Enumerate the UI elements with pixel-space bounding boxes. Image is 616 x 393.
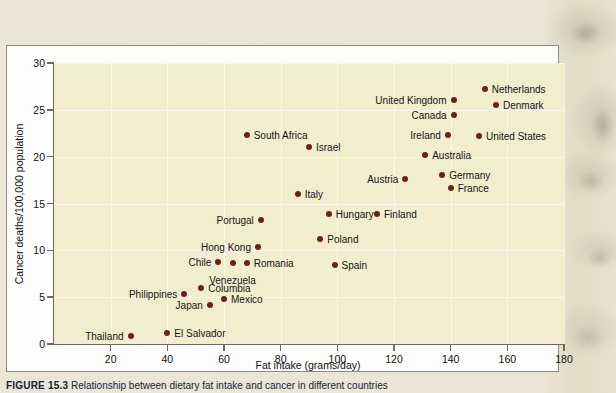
- data-point-label: Germany: [449, 170, 490, 181]
- data-point[interactable]: [451, 112, 457, 118]
- data-point-label: Chile: [189, 256, 212, 267]
- y-axis-tick-label: 10: [33, 244, 45, 256]
- scatter-plot-area: NetherlandsUnited KingdomDenmarkCanadaIr…: [53, 63, 564, 345]
- y-axis-tick: [47, 250, 54, 252]
- y-axis-tick-label: 5: [39, 291, 45, 303]
- x-axis-title: Fat intake (grams/day): [53, 359, 563, 371]
- data-point-label: Hong Kong: [201, 241, 251, 252]
- figure-caption-number: FIGURE 15.3: [6, 380, 68, 391]
- x-axis-tick: [450, 344, 452, 351]
- data-point[interactable]: [476, 133, 482, 139]
- data-point[interactable]: [244, 260, 250, 266]
- gridline-horizontal: [54, 204, 564, 205]
- y-axis-title: Cancer deaths/100,000 population: [12, 63, 26, 344]
- data-point[interactable]: [244, 132, 250, 138]
- data-point-label: Ireland: [410, 130, 441, 141]
- data-point[interactable]: [439, 172, 445, 178]
- data-point[interactable]: [230, 260, 236, 266]
- data-point[interactable]: [332, 262, 338, 268]
- y-axis-tick-label: 30: [33, 57, 45, 69]
- y-axis-tick-label: 15: [33, 198, 45, 210]
- y-axis-tick-label: 0: [39, 338, 45, 350]
- figure-page: Cancer deaths/100,000 population Netherl…: [0, 0, 616, 393]
- data-point-label: Denmark: [503, 100, 544, 111]
- y-axis-tick: [47, 62, 54, 64]
- data-point-label: United States: [486, 131, 546, 142]
- gridline-vertical: [564, 63, 565, 344]
- data-point-label: Israel: [316, 142, 340, 153]
- data-point[interactable]: [198, 285, 204, 291]
- y-axis-tick: [47, 343, 54, 345]
- data-point[interactable]: [422, 152, 428, 158]
- data-point[interactable]: [374, 211, 380, 217]
- data-point-label: El Salvador: [174, 327, 225, 338]
- x-axis-tick: [280, 344, 282, 351]
- data-point[interactable]: [255, 244, 261, 250]
- y-axis-title-text: Cancer deaths/100,000 population: [13, 123, 25, 284]
- y-axis-tick: [47, 109, 54, 111]
- figure-card: Cancer deaths/100,000 population Netherl…: [6, 45, 559, 372]
- data-point[interactable]: [326, 211, 332, 217]
- data-point-label: United Kingdom: [375, 95, 446, 106]
- page-margin-texture: [566, 0, 616, 393]
- x-axis-tick: [563, 344, 565, 351]
- y-axis-tick: [47, 296, 54, 298]
- data-point[interactable]: [402, 176, 408, 182]
- x-axis-tick: [393, 344, 395, 351]
- data-point-label: Portugal: [217, 215, 254, 226]
- x-axis-tick: [110, 344, 112, 351]
- data-point-label: Thailand: [85, 330, 123, 341]
- data-point-label: Mexico: [231, 294, 263, 305]
- y-axis-tick-label: 25: [33, 104, 45, 116]
- data-point-label: Italy: [305, 189, 323, 200]
- data-point[interactable]: [221, 296, 227, 302]
- data-point-label: Canada: [411, 109, 446, 120]
- y-axis-tick-label: 20: [33, 151, 45, 163]
- x-axis-tick: [167, 344, 169, 351]
- data-point[interactable]: [445, 132, 451, 138]
- data-point[interactable]: [482, 86, 488, 92]
- figure-caption: FIGURE 15.3 Relationship between dietary…: [6, 379, 562, 393]
- data-point[interactable]: [493, 102, 499, 108]
- data-point[interactable]: [317, 236, 323, 242]
- data-point[interactable]: [258, 217, 264, 223]
- data-point-label: Finland: [384, 208, 417, 219]
- data-point-label: Netherlands: [492, 84, 546, 95]
- data-point-label: Spain: [342, 260, 368, 271]
- gridline-horizontal: [54, 110, 564, 111]
- plot-inner: NetherlandsUnited KingdomDenmarkCanadaIr…: [54, 63, 564, 344]
- data-point-label: Australia: [432, 149, 471, 160]
- data-point[interactable]: [295, 191, 301, 197]
- data-point[interactable]: [215, 259, 221, 265]
- data-point-label: Hungary: [336, 208, 374, 219]
- data-point-label: France: [458, 182, 489, 193]
- data-point-label: South Africa: [254, 130, 308, 141]
- data-point[interactable]: [164, 330, 170, 336]
- data-point-label: Poland: [327, 234, 358, 245]
- x-axis-tick: [223, 344, 225, 351]
- y-axis-tick: [47, 156, 54, 158]
- gridline-horizontal: [54, 63, 564, 64]
- y-axis-tick: [47, 203, 54, 205]
- data-point[interactable]: [448, 185, 454, 191]
- gridline-horizontal: [54, 157, 564, 158]
- gridline-horizontal: [54, 250, 564, 251]
- data-point-label: Philippines: [129, 289, 177, 300]
- data-point-label: Japan: [176, 299, 203, 310]
- data-point-label: Romania: [254, 257, 294, 268]
- x-axis-tick: [507, 344, 509, 351]
- figure-caption-text: Relationship between dietary fat intake …: [71, 380, 388, 391]
- data-point[interactable]: [207, 302, 213, 308]
- x-axis-tick: [337, 344, 339, 351]
- data-point-label: Columbia: [208, 282, 250, 293]
- data-point-label: Austria: [367, 174, 398, 185]
- data-point[interactable]: [306, 144, 312, 150]
- data-point[interactable]: [128, 333, 134, 339]
